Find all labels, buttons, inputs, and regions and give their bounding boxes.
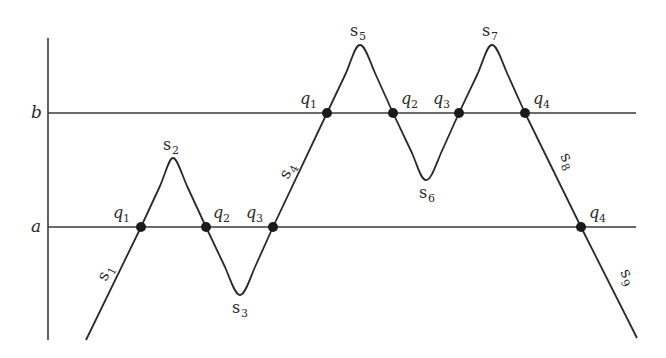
segment-label-s8: s 8 [554, 149, 581, 173]
svg-text:q: q [433, 89, 443, 108]
segment-label-s5: s 5 [350, 21, 366, 43]
svg-text:q: q [533, 89, 543, 108]
segment-label-s1: s 1 [93, 261, 120, 285]
crossing-label-b-q2: q 2 [401, 89, 418, 111]
diagram-canvas: b a q 1 q 2 q 3 q 4 q 1 q 2 q 3 q 4 [0, 0, 666, 358]
svg-text:q: q [113, 203, 123, 222]
crossing-point-a-q1 [136, 222, 146, 232]
segment-label-s7: s 7 [482, 21, 498, 43]
crossing-label-a-q3: q 3 [246, 203, 263, 225]
crossing-label-a-q1: q 1 [113, 203, 130, 225]
crossing-point-b-q2 [388, 108, 398, 118]
level-crossing-diagram: b a q 1 q 2 q 3 q 4 q 1 q 2 q 3 q 4 [0, 0, 666, 358]
svg-text:2: 2 [172, 144, 179, 157]
svg-text:q: q [246, 203, 256, 222]
svg-text:s: s [163, 135, 171, 154]
svg-text:6: 6 [428, 192, 435, 205]
segment-label-s9: s 9 [614, 265, 641, 289]
level-label-a: a [31, 216, 41, 236]
svg-text:q: q [300, 89, 310, 108]
crossing-label-b-q1: q 1 [300, 89, 317, 111]
crossing-label-a-q2: q 2 [213, 203, 230, 225]
svg-text:q: q [213, 203, 223, 222]
crossing-point-a-q4 [576, 222, 586, 232]
svg-text:1: 1 [123, 212, 130, 225]
svg-text:2: 2 [411, 98, 418, 111]
svg-text:q: q [401, 89, 411, 108]
svg-text:3: 3 [241, 307, 248, 320]
crossing-point-b-q4 [520, 108, 530, 118]
crossing-label-a-q4: q 4 [589, 203, 606, 225]
svg-text:7: 7 [491, 30, 498, 43]
svg-text:4: 4 [599, 212, 606, 225]
crossing-point-b-q1 [322, 108, 332, 118]
svg-text:s: s [232, 298, 240, 317]
svg-text:s: s [419, 183, 427, 202]
svg-text:5: 5 [359, 30, 366, 43]
crossing-point-b-q3 [454, 108, 464, 118]
crossing-label-b-q3: q 3 [433, 89, 450, 111]
svg-text:q: q [589, 203, 599, 222]
segment-label-s6: s 6 [419, 183, 435, 205]
svg-text:3: 3 [443, 98, 450, 111]
crossing-label-b-q4: q 4 [533, 89, 550, 111]
svg-text:4: 4 [543, 98, 550, 111]
crossing-point-a-q2 [201, 222, 211, 232]
segment-label-s4: s 4 [275, 159, 302, 183]
segment-label-s2: s 2 [163, 135, 179, 157]
segment-label-s3: s 3 [232, 298, 248, 320]
svg-text:s: s [350, 21, 358, 40]
crossing-point-a-q3 [268, 222, 278, 232]
curve-path [86, 45, 637, 340]
svg-text:3: 3 [256, 212, 263, 225]
level-label-b: b [31, 102, 42, 122]
svg-text:s: s [482, 21, 490, 40]
svg-text:1: 1 [310, 98, 317, 111]
svg-text:2: 2 [223, 212, 230, 225]
